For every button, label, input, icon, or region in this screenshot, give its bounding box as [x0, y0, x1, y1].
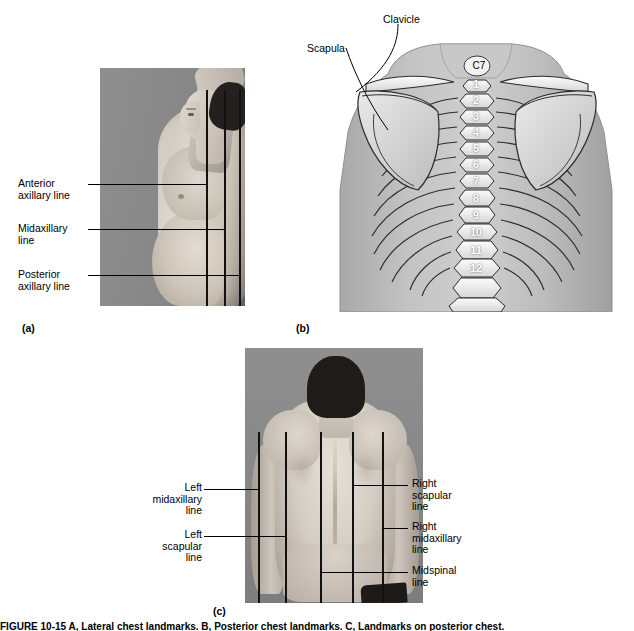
midaxillary-line-marker	[224, 90, 226, 306]
leader-right-midaxillary	[382, 528, 408, 529]
figure-caption: FIGURE 10-15 A, Lateral chest landmarks.…	[0, 621, 634, 631]
panel-a-lateral-photo	[100, 68, 245, 306]
anterior-axillary-line-marker	[206, 90, 208, 306]
nipple-marker	[178, 194, 184, 199]
leader-clavicle	[356, 24, 398, 92]
panel-a-tag: (a)	[22, 322, 35, 334]
vertebra-number: 11	[466, 244, 486, 256]
label-scapula: Scapula	[307, 43, 363, 55]
leader-left-midaxillary	[204, 489, 259, 490]
label-clavicle: Clavicle	[383, 14, 443, 26]
panel-c-tag: (c)	[213, 605, 226, 617]
leader-anterior-axillary	[88, 184, 206, 185]
face-profile	[180, 102, 200, 134]
vertebra-number: 6	[466, 158, 486, 170]
right-midaxillary-line-marker	[382, 432, 384, 603]
midspinal-line-marker	[320, 432, 322, 603]
right-scapula-shading	[289, 452, 315, 486]
label-right-midaxillary-line: Right midaxillary line	[412, 521, 492, 556]
label-midaxillary-line: Midaxillary line	[18, 223, 90, 246]
left-midaxillary-line-marker	[258, 432, 260, 603]
figure-container: Anterior axillary line Midaxillary line …	[0, 0, 634, 631]
vertebra-number: 8	[466, 192, 486, 204]
panel-b-leaders	[280, 10, 480, 150]
vertebra-number: 12	[466, 262, 486, 274]
leader-posterior-axillary	[88, 275, 239, 276]
panel-b-tag: (b)	[296, 322, 309, 334]
clothing-edge	[360, 582, 407, 603]
leader-scapula	[346, 48, 388, 130]
lumbar-vertebra	[449, 298, 505, 312]
label-left-midaxillary-line: Left midaxillary line	[132, 482, 202, 517]
vertebra-number: 10	[466, 226, 486, 238]
vertebra-number: 7	[466, 175, 486, 187]
hair	[307, 356, 365, 418]
posterior-axillary-line-marker	[239, 90, 241, 306]
leader-left-scapular	[204, 536, 286, 537]
leader-midaxillary	[88, 229, 224, 230]
eye	[188, 113, 194, 116]
label-left-scapular-line: Left scapular line	[132, 529, 202, 564]
left-scapular-line-marker	[285, 432, 287, 603]
right-scapular-line-marker	[352, 432, 354, 603]
panel-c-posterior-photo	[245, 348, 423, 603]
label-right-scapular-line: Right scapular line	[412, 478, 492, 513]
label-midspinal-line: Midspinal line	[412, 565, 492, 588]
left-scapula-shading	[353, 452, 379, 486]
leader-midspinal	[320, 572, 408, 573]
label-anterior-axillary-line: Anterior axillary line	[18, 178, 90, 201]
vertebra-number: 9	[466, 209, 486, 221]
label-posterior-axillary-line: Posterior axillary line	[18, 269, 90, 292]
brow	[186, 108, 196, 110]
leader-right-scapular	[352, 485, 408, 486]
